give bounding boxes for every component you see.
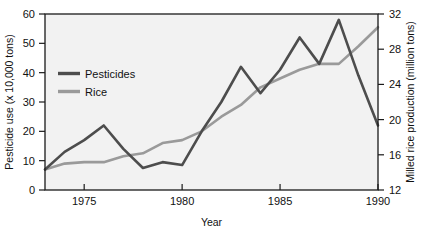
plot-area-background xyxy=(45,14,378,190)
y-tick-label-40: 40 xyxy=(23,67,35,79)
y-axis-right-ticks xyxy=(378,14,384,190)
y-tick-label-60: 60 xyxy=(23,8,35,20)
x-tick-label-1985: 1985 xyxy=(268,195,292,207)
y-tick-label-20: 20 xyxy=(23,125,35,137)
legend-label-rice: Rice xyxy=(85,86,107,98)
y-axis-right-tick-labels: 12 16 20 24 28 32 xyxy=(389,8,401,196)
y-axis-right-title: Milled rice production (million tons) xyxy=(404,21,416,183)
chart-figure: 0 10 20 30 40 50 60 12 16 20 24 28 32 xyxy=(0,0,424,242)
y-axis-left-title: Pesticide use (x 10,000 tons) xyxy=(3,34,15,169)
y2-tick-label-24: 24 xyxy=(389,78,401,90)
y2-tick-label-32: 32 xyxy=(389,8,401,20)
y2-tick-label-12: 12 xyxy=(389,184,401,196)
y2-tick-label-20: 20 xyxy=(389,114,401,126)
y2-tick-label-16: 16 xyxy=(389,149,401,161)
x-axis-title: Year xyxy=(201,216,223,228)
legend-label-pesticides: Pesticides xyxy=(85,68,136,80)
y-tick-label-50: 50 xyxy=(23,37,35,49)
y-tick-label-0: 0 xyxy=(29,184,35,196)
y-axis-left-tick-labels: 0 10 20 30 40 50 60 xyxy=(23,8,35,196)
x-tick-label-1980: 1980 xyxy=(170,195,194,207)
y2-tick-label-28: 28 xyxy=(389,43,401,55)
y-tick-label-30: 30 xyxy=(23,96,35,108)
line-chart-svg: 0 10 20 30 40 50 60 12 16 20 24 28 32 xyxy=(0,0,424,242)
y-axis-left-ticks xyxy=(39,14,45,190)
x-axis-tick-labels: 1975 1980 1985 1990 xyxy=(72,195,390,207)
y-tick-label-10: 10 xyxy=(23,155,35,167)
x-tick-label-1975: 1975 xyxy=(72,195,96,207)
x-tick-label-1990: 1990 xyxy=(366,195,390,207)
